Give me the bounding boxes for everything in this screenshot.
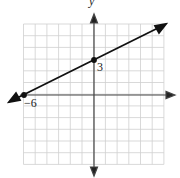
y-axis-arrow-up-icon: [91, 14, 98, 23]
y-intercept-label: 3: [97, 61, 103, 73]
y-axis-arrow-down-icon: [91, 167, 98, 176]
axes: [20, 14, 175, 176]
y-intercept-point: [92, 58, 96, 62]
x-axis-arrow-icon: [166, 92, 175, 99]
x-intercept-label: −6: [24, 97, 37, 109]
graph: [0, 0, 180, 178]
line-arrow-right-icon: [155, 24, 166, 33]
y-axis-label: y: [89, 0, 94, 7]
line-arrow-left-icon: [9, 93, 20, 102]
